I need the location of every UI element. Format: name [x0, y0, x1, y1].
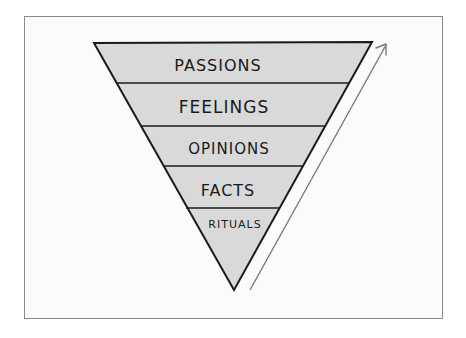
layer-label-facts: FACTS [201, 181, 256, 200]
layer-label-passions: PASSIONS [174, 56, 261, 75]
layer-label-rituals: RITUALS [208, 218, 261, 231]
inverted-pyramid-diagram: PASSIONS FEELINGS OPINIONS FACTS RITUALS [0, 0, 466, 338]
layer-label-feelings: FEELINGS [179, 97, 269, 117]
layer-label-opinions: OPINIONS [188, 140, 269, 158]
